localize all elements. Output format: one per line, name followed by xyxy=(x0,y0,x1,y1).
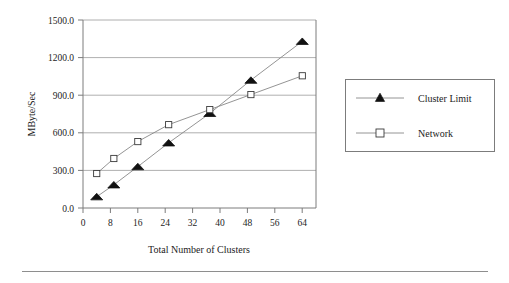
plot-area-background xyxy=(83,20,316,208)
y-axis-title: MByte/Sec xyxy=(26,91,37,137)
x-tick-label-24: 24 xyxy=(160,218,170,228)
x-tick-label-0: 0 xyxy=(81,218,86,228)
y-tick-label-1200: 1200.0 xyxy=(48,53,74,63)
line-chart: 0.0 300.0 600.0 900.0 1200.0 1500.0 0 8 … xyxy=(0,0,509,283)
x-axis-title: Total Number of Clusters xyxy=(148,244,250,255)
legend-label-cluster-limit: Cluster Limit xyxy=(418,93,472,104)
y-tick-label-1500: 1500.0 xyxy=(48,16,74,26)
data-point-open-square xyxy=(248,91,254,97)
data-point-open-square xyxy=(135,138,141,144)
x-tick-label-48: 48 xyxy=(243,218,253,228)
x-tick-label-40: 40 xyxy=(215,218,225,228)
data-point-open-square xyxy=(207,107,213,113)
legend-box xyxy=(346,80,495,152)
x-tick-label-16: 16 xyxy=(133,218,143,228)
data-point-open-square xyxy=(299,73,305,79)
x-tick-label-64: 64 xyxy=(297,218,307,228)
x-tick-label-56: 56 xyxy=(270,218,280,228)
figure-container: 0.0 300.0 600.0 900.0 1200.0 1500.0 0 8 … xyxy=(0,0,509,283)
y-tick-label-0: 0.0 xyxy=(62,204,74,214)
y-tick-label-900: 900.0 xyxy=(53,91,75,101)
x-axis-ticks xyxy=(83,208,302,213)
legend-label-network: Network xyxy=(418,128,453,139)
y-tick-label-300: 300.0 xyxy=(53,166,75,176)
open-square-icon xyxy=(376,129,384,137)
x-tick-labels: 0 8 16 24 32 40 48 56 64 xyxy=(81,218,308,228)
data-point-open-square xyxy=(166,122,172,128)
data-point-open-square xyxy=(111,155,117,161)
data-point-open-square xyxy=(94,170,100,176)
y-tick-labels: 0.0 300.0 600.0 900.0 1200.0 1500.0 xyxy=(48,16,74,214)
x-tick-label-8: 8 xyxy=(108,218,113,228)
footer-divider xyxy=(22,271,488,272)
x-tick-label-32: 32 xyxy=(188,218,198,228)
legend: Cluster Limit Network xyxy=(346,80,495,152)
y-tick-label-600: 600.0 xyxy=(53,128,75,138)
y-axis-ticks xyxy=(78,20,83,208)
